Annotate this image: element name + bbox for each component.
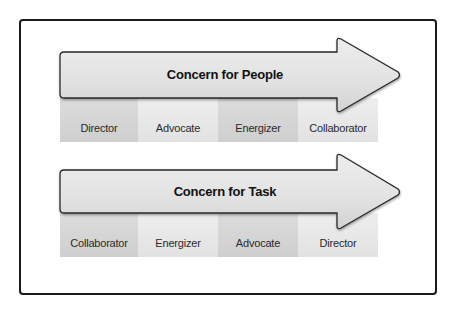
arrow-label: Concern for Task [60,184,390,199]
right-arrow-icon [0,0,455,310]
